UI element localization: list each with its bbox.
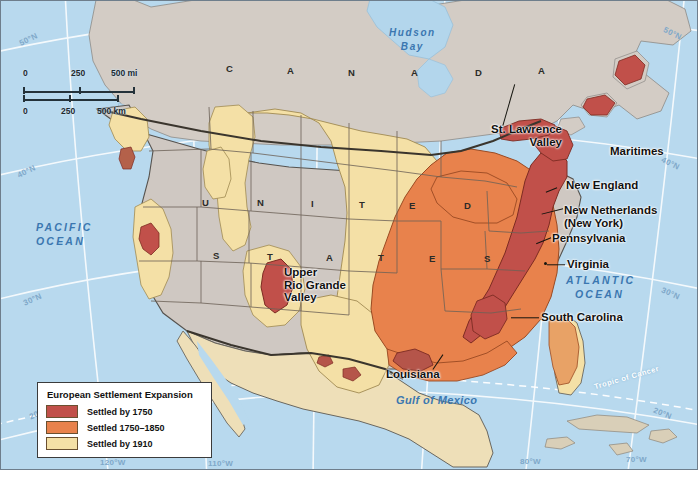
canada-letter: N xyxy=(348,67,355,78)
united-letter: T xyxy=(359,199,365,210)
legend-label-settled-1750-1850: Settled 1750–1850 xyxy=(87,423,165,433)
canada-letter: D xyxy=(475,67,482,78)
legend-title: European Settlement Expansion xyxy=(47,389,203,400)
scale-bar-kilometers: 0 250 500 km xyxy=(23,107,145,121)
canada-letter: A xyxy=(411,67,418,78)
virginia-leader-line xyxy=(547,264,565,265)
united-letter: N xyxy=(257,197,264,208)
scale-km-line xyxy=(23,99,119,101)
scale-miles-max: 500 mi xyxy=(111,68,137,78)
legend-row-settled-by-1910: Settled by 1910 xyxy=(46,437,203,450)
scale-bar-miles: 0 250 500 mi xyxy=(23,69,145,87)
scale-km-zero: 0 xyxy=(23,106,28,116)
states-letter: E xyxy=(429,253,435,264)
states-letter: A xyxy=(326,252,333,263)
scale-km-tick-0 xyxy=(23,95,25,102)
scale-miles-zero: 0 xyxy=(23,68,28,78)
legend-label-settled-by-1910: Settled by 1910 xyxy=(87,439,153,449)
scale-miles-tick-max xyxy=(133,87,135,94)
settlement-expansion-map: C A N A D A U N I T E D S T A T E S PACI… xyxy=(0,0,698,485)
scale-miles-tick-mid xyxy=(79,87,81,94)
states-letter: T xyxy=(267,251,273,262)
scale-bar: 0 250 500 mi 0 250 500 km xyxy=(23,69,145,121)
canada-letter: A xyxy=(287,65,294,76)
south-carolina-leader-line xyxy=(511,317,539,318)
scale-miles-mid: 250 xyxy=(71,68,85,78)
legend-swatch-settled-by-1910 xyxy=(46,437,78,450)
states-letter: T xyxy=(378,252,384,263)
united-letter: U xyxy=(202,197,209,208)
united-letter: D xyxy=(464,200,471,211)
legend-row-settled-by-1750: Settled by 1750 xyxy=(46,405,203,418)
legend-swatch-settled-1750-1850 xyxy=(46,421,78,434)
states-letter: S xyxy=(484,253,490,264)
map-legend: European Settlement Expansion Settled by… xyxy=(37,382,212,458)
map-frame: C A N A D A U N I T E D S T A T E S PACI… xyxy=(0,0,698,470)
legend-swatch-settled-by-1750 xyxy=(46,405,78,418)
scale-km-mid: 250 xyxy=(61,106,75,116)
scale-km-tick-max xyxy=(117,95,119,102)
legend-row-settled-1750-1850: Settled 1750–1850 xyxy=(46,421,203,434)
scale-km-max: 500 km xyxy=(97,106,126,116)
states-letter: S xyxy=(213,250,219,261)
united-letter: I xyxy=(311,198,314,209)
scale-km-tick-mid xyxy=(69,95,71,102)
canada-letter: A xyxy=(538,65,545,76)
canada-letter: C xyxy=(226,63,233,74)
united-letter: E xyxy=(409,200,415,211)
legend-label-settled-by-1750: Settled by 1750 xyxy=(87,407,153,417)
scale-miles-tick-0 xyxy=(23,87,25,94)
